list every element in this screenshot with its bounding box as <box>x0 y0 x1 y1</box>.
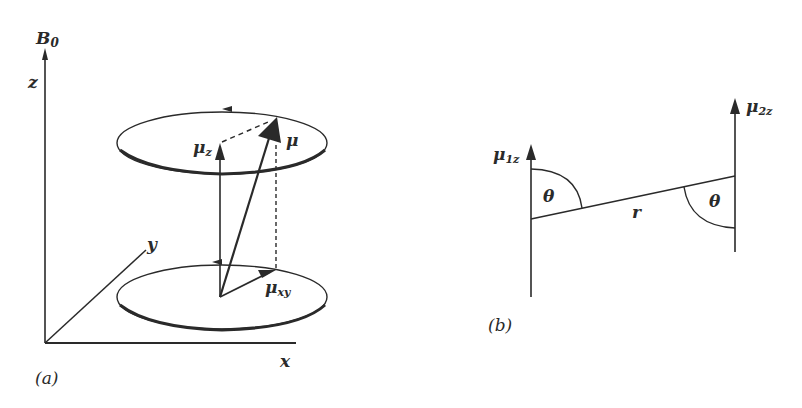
z-axis-label: z <box>27 72 38 92</box>
y-axis: y <box>45 234 158 343</box>
mu-xy-label: μxy <box>265 277 292 299</box>
panel-b: μ1z μ2z r θ θ (b) <box>488 96 773 335</box>
mu-z-arrowhead-icon <box>215 143 225 160</box>
dipole-figure: B0 z x y μz <box>0 0 802 408</box>
angle-left: θ <box>531 169 582 208</box>
mu-z-vector: μz <box>193 137 225 297</box>
projection-line-horizontal <box>222 122 268 142</box>
mu-label: μ <box>286 130 298 150</box>
mu-z-label: μz <box>193 137 212 159</box>
distance-label: r <box>632 202 642 222</box>
theta-left-label: θ <box>543 186 555 206</box>
mu1z-arrowhead-icon <box>526 144 536 160</box>
precession-direction-arrow-icon <box>222 106 232 112</box>
theta-right-label: θ <box>709 191 721 211</box>
angle-right: θ <box>684 187 735 228</box>
x-axis-label: x <box>279 351 291 371</box>
mu2z-label: μ2z <box>746 96 773 118</box>
panel-a-label: (a) <box>35 368 58 388</box>
y-axis-label: y <box>146 234 158 254</box>
panel-b-label: (b) <box>488 315 512 335</box>
dipole-1: μ1z <box>493 144 536 297</box>
mu-xy-vector: μxy <box>220 270 292 299</box>
x-axis: x <box>45 343 296 371</box>
z-axis: B0 z <box>27 28 59 343</box>
internuclear-vector: r <box>531 176 735 222</box>
z-axis-arrow-icon <box>42 48 48 60</box>
dipole-2: μ2z <box>730 96 773 252</box>
field-label: B0 <box>35 28 59 50</box>
mu1z-label: μ1z <box>493 144 520 166</box>
lower-precession-circle <box>117 259 327 330</box>
mu2z-arrowhead-icon <box>730 98 740 114</box>
mu-arrowhead-icon <box>258 117 281 143</box>
panel-a: B0 z x y μz <box>27 28 327 388</box>
